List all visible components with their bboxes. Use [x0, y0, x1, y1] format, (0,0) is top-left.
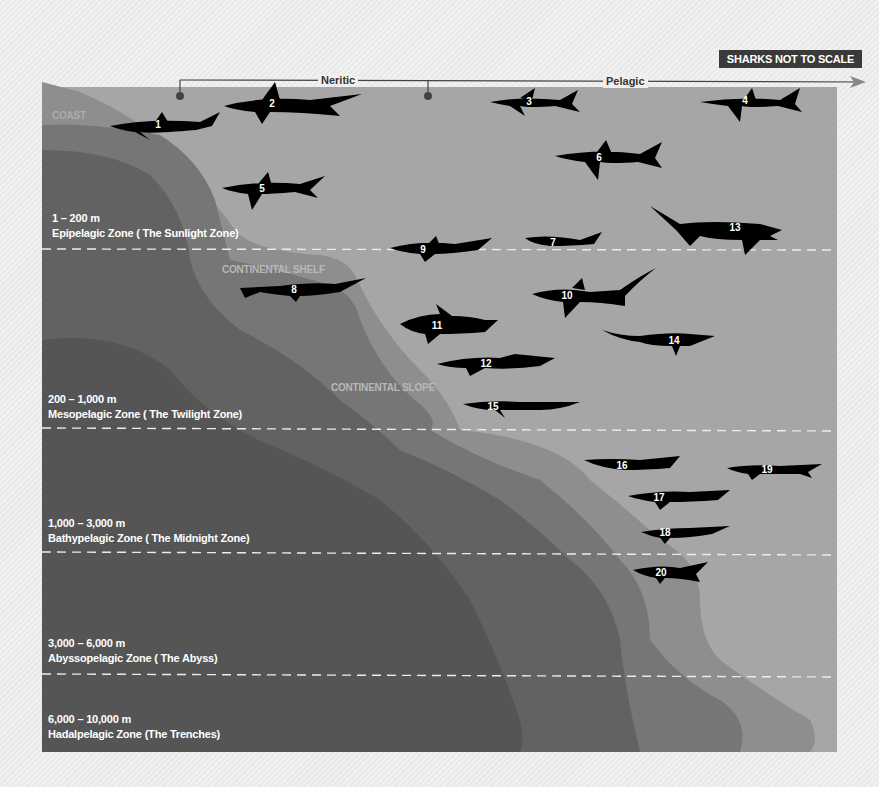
neritic-end-dot: [424, 92, 432, 100]
zone-depth: 6,000 – 10,000 m: [48, 712, 220, 727]
shark-number: 4: [742, 95, 748, 106]
zone-name: Epipelagic Zone ( The Sunlight Zone): [52, 226, 239, 241]
neritic-start-dot: [176, 92, 184, 100]
shark-number: 2: [269, 98, 275, 109]
ocean-zones-diagram: SHARKS NOT TO SCALE Neritic Pelagic COAS…: [0, 0, 879, 787]
shark-number: 13: [729, 222, 740, 233]
shark-number: 8: [291, 284, 297, 295]
zone-depth: 1 – 200 m: [52, 211, 239, 226]
shark-number: 10: [561, 290, 572, 301]
shark-number: 15: [487, 401, 498, 412]
zone-name: Bathypelagic Zone ( The Midnight Zone): [48, 531, 249, 546]
zone-name: Abyssopelagic Zone ( The Abyss): [48, 651, 217, 666]
continental-slope-label: CONTINENTAL SLOPE: [331, 382, 435, 393]
continental-shelf-label: CONTINENTAL SHELF: [222, 264, 325, 275]
zone-name: Mesopelagic Zone ( The Twilight Zone): [48, 407, 242, 422]
neritic-label: Neritic: [318, 74, 358, 87]
shark-number: 6: [596, 152, 602, 163]
shark-number: 11: [432, 320, 443, 331]
zone-mesopelagic: 200 – 1,000 m Mesopelagic Zone ( The Twi…: [48, 392, 242, 422]
shark-number: 18: [659, 527, 670, 538]
zone-depth: 200 – 1,000 m: [48, 392, 242, 407]
zone-name: Hadalpelagic Zone (The Trenches): [48, 727, 220, 742]
shark-number: 5: [259, 183, 265, 194]
shark-number: 3: [526, 96, 532, 107]
shark-number: 7: [550, 237, 556, 248]
shark-number: 12: [480, 358, 491, 369]
shark-number: 9: [420, 244, 426, 255]
zone-epipelagic: 1 – 200 m Epipelagic Zone ( The Sunlight…: [52, 211, 239, 241]
zone-bathypelagic: 1,000 – 3,000 m Bathypelagic Zone ( The …: [48, 516, 249, 546]
not-to-scale-badge: SHARKS NOT TO SCALE: [719, 50, 862, 68]
coast-label: COAST: [52, 110, 86, 121]
shark-number: 20: [655, 567, 666, 578]
zone-abyssopelagic: 3,000 – 6,000 m Abyssopelagic Zone ( The…: [48, 636, 217, 666]
shark-number: 14: [668, 335, 679, 346]
shark-number: 19: [761, 464, 772, 475]
pelagic-label: Pelagic: [603, 75, 648, 88]
shark-number: 17: [653, 492, 664, 503]
shark-number: 16: [616, 460, 627, 471]
zone-depth: 1,000 – 3,000 m: [48, 516, 249, 531]
zone-depth: 3,000 – 6,000 m: [48, 636, 217, 651]
shark-number: 1: [155, 119, 161, 130]
zone-hadalpelagic: 6,000 – 10,000 m Hadalpelagic Zone (The …: [48, 712, 220, 742]
